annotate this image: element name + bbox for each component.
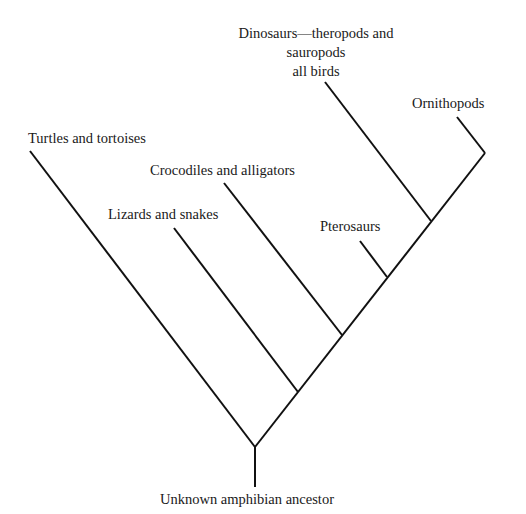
turtles-label: Turtles and tortoises: [28, 129, 146, 148]
main-trunk: [255, 153, 485, 447]
dinosaurs-label-line3: all birds: [226, 62, 406, 81]
dinosaurs-label-line1: Dinosaurs—theropods and: [226, 24, 406, 43]
branch-lizards: [174, 228, 298, 392]
lizards-label: Lizards and snakes: [108, 205, 218, 224]
branch-ornithopods: [457, 117, 485, 153]
branch-crocodiles: [224, 183, 342, 335]
crocodiles-label: Crocodiles and alligators: [150, 161, 295, 180]
branch-pterosaurs: [360, 241, 387, 277]
dinosaurs-label: Dinosaurs—theropods and sauropods all bi…: [226, 24, 406, 81]
pterosaurs-label: Pterosaurs: [320, 217, 380, 236]
branch-turtles: [30, 151, 255, 447]
ornithopods-label: Ornithopods: [412, 94, 485, 113]
root-label: Unknown amphibian ancestor: [160, 490, 334, 509]
dinosaurs-label-line2: sauropods: [226, 43, 406, 62]
